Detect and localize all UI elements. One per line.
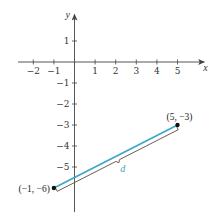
point-dot xyxy=(52,186,56,190)
y-tick-label: −5 xyxy=(56,162,70,172)
point-label-start: (−1, −6) xyxy=(19,184,50,195)
y-tick-label: −4 xyxy=(56,141,70,151)
y-tick-label: −1 xyxy=(56,78,69,88)
x-axis-label: x xyxy=(202,62,208,73)
line-segment-d xyxy=(54,125,178,188)
x-tick-label: 5 xyxy=(175,66,181,76)
y-tick-label: −3 xyxy=(56,120,70,130)
point-dot xyxy=(175,123,179,127)
x-tick-label: 3 xyxy=(133,66,139,76)
x-tick-label: −2 xyxy=(27,66,40,76)
y-axis-label: y xyxy=(65,9,71,20)
segment-d xyxy=(54,125,178,188)
x-tick-label: 1 xyxy=(92,66,98,76)
labels: xy−2−1123451−1−2−3−4−5d(−1, −6)(5, −3) xyxy=(19,9,209,195)
x-tick-label: 4 xyxy=(154,66,160,76)
y-tick-label: 1 xyxy=(64,36,70,46)
axis-ticks xyxy=(33,41,177,167)
distance-label-d: d xyxy=(120,163,126,174)
x-tick-label: −1 xyxy=(47,66,60,76)
plot-svg: xy−2−1123451−1−2−3−4−5d(−1, −6)(5, −3) xyxy=(0,0,217,222)
coordinate-plane-figure: xy−2−1123451−1−2−3−4−5d(−1, −6)(5, −3) xyxy=(0,0,217,222)
y-tick-label: −2 xyxy=(56,99,69,109)
x-tick-label: 2 xyxy=(113,66,119,76)
point-label-end: (5, −3) xyxy=(167,112,193,123)
